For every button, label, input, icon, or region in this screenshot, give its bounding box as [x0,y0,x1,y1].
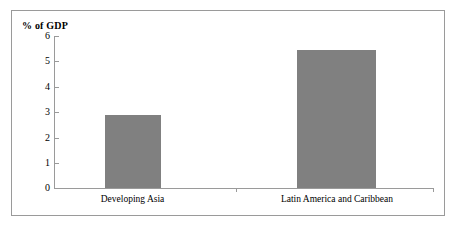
y-tick-mark-6 [55,36,59,37]
y-tick-label-1: 1 [24,158,50,168]
y-tick-mark-5 [55,61,59,62]
y-tick-label-2: 2 [24,133,50,143]
bar-latin-america-and-caribbean [297,50,376,188]
y-tick-label-4: 4 [24,82,50,92]
y-tick-mark-0 [55,188,59,189]
y-tick-label-6: 6 [24,31,50,41]
chart-frame [11,10,445,216]
y-tick-label-3: 3 [24,107,50,117]
y-tick-mark-1 [55,163,59,164]
category-separator-tick [236,188,237,192]
bar-developing-asia [105,115,161,188]
chart-figure: % of GDP 6 5 4 3 2 1 0 Developing Asia L… [0,0,459,231]
y-tick-mark-4 [55,87,59,88]
y-tick-mark-2 [55,138,59,139]
x-axis-end-tick [433,188,434,192]
x-axis-line [54,188,434,189]
category-label-latin-america-and-caribbean: Latin America and Caribbean [268,194,406,205]
y-tick-label-0: 0 [24,183,50,193]
y-tick-mark-3 [55,112,59,113]
y-tick-label-5: 5 [24,56,50,66]
category-label-developing-asia: Developing Asia [70,194,195,205]
